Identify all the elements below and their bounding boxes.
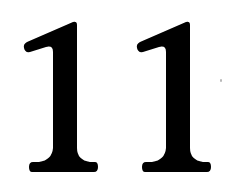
scan-artifact-dot [220, 79, 222, 82]
number-display: 11 [0, 0, 226, 194]
number-glyphs [0, 0, 226, 194]
digit-one-first [24, 22, 98, 172]
digit-one-second [137, 22, 211, 172]
